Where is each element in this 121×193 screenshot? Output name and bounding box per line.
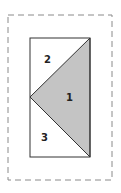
folded-rectangle-diagram: 2 1 3: [0, 0, 121, 193]
region-label-3: 3: [41, 132, 48, 143]
region-label-2: 2: [44, 54, 51, 65]
region-label-1: 1: [66, 92, 73, 103]
